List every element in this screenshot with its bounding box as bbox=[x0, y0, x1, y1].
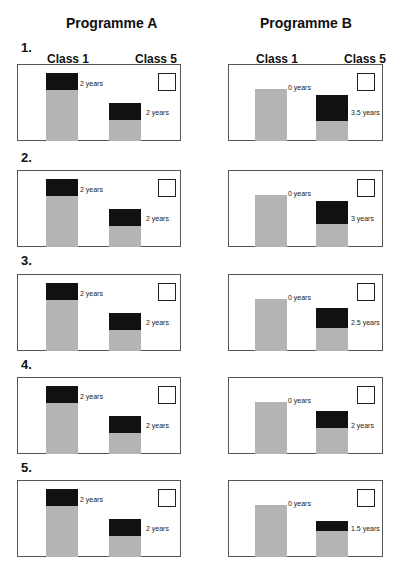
programme-a-panel: 2 years 2 years bbox=[17, 274, 181, 351]
class5-bar bbox=[316, 521, 348, 557]
class1-duration-label: 0 years bbox=[288, 84, 311, 91]
answer-checkbox[interactable] bbox=[158, 179, 176, 197]
answer-checkbox[interactable] bbox=[357, 386, 375, 404]
class5-duration-label: 3.5 years bbox=[351, 109, 380, 116]
class5-duration-label: 1.5 years bbox=[351, 525, 380, 532]
class5-duration-label: 2 years bbox=[146, 215, 169, 222]
class1-bar bbox=[255, 505, 287, 557]
programme-b-panel: 0 years 2.5 years bbox=[228, 274, 383, 351]
answer-checkbox[interactable] bbox=[357, 73, 375, 91]
class1-duration-label: 2 years bbox=[80, 186, 103, 193]
programme-b-panel: 0 years 3.5 years bbox=[228, 64, 383, 141]
class1-duration-label: 0 years bbox=[288, 500, 311, 507]
class5-duration-label: 2 years bbox=[146, 422, 169, 429]
programme-b-panel: 0 years 3 years bbox=[228, 170, 383, 247]
class5-bar bbox=[109, 416, 141, 454]
class5-duration-label: 2 years bbox=[146, 109, 169, 116]
programme-a-panel: 2 years 2 years bbox=[17, 64, 181, 141]
row-number: 2. bbox=[21, 150, 32, 165]
class5-duration-label: 2.5 years bbox=[351, 319, 380, 326]
class1-bar bbox=[255, 402, 287, 454]
programme-a-panel: 2 years 2 years bbox=[17, 480, 181, 557]
answer-checkbox[interactable] bbox=[357, 179, 375, 197]
class5-bar bbox=[109, 313, 141, 351]
programme-a-panel: 2 years 2 years bbox=[17, 170, 181, 247]
class1-bar bbox=[46, 386, 78, 454]
answer-checkbox[interactable] bbox=[158, 283, 176, 301]
class5-bar bbox=[109, 519, 141, 557]
class1-duration-label: 2 years bbox=[80, 393, 103, 400]
class5-duration-label: 2 years bbox=[351, 422, 374, 429]
class5-duration-label: 2 years bbox=[146, 525, 169, 532]
row-number: 4. bbox=[21, 357, 32, 372]
row-number: 3. bbox=[21, 253, 32, 268]
row-number: 5. bbox=[21, 460, 32, 475]
class1-bar bbox=[255, 89, 287, 141]
class5-bar bbox=[316, 411, 348, 454]
programme-b-panel: 0 years 1.5 years bbox=[228, 480, 383, 557]
answer-checkbox[interactable] bbox=[158, 489, 176, 507]
class5-bar bbox=[316, 201, 348, 247]
programme-a-panel: 2 years 2 years bbox=[17, 377, 181, 454]
class5-duration-label: 2 years bbox=[146, 319, 169, 326]
class1-bar bbox=[46, 73, 78, 141]
class1-bar bbox=[46, 489, 78, 557]
class1-duration-label: 0 years bbox=[288, 294, 311, 301]
answer-checkbox[interactable] bbox=[158, 73, 176, 91]
class1-bar bbox=[46, 179, 78, 247]
class5-bar bbox=[109, 103, 141, 141]
class1-duration-label: 0 years bbox=[288, 190, 311, 197]
programme-b-title: Programme B bbox=[260, 15, 352, 31]
answer-checkbox[interactable] bbox=[357, 283, 375, 301]
class5-bar bbox=[316, 308, 348, 351]
class5-bar bbox=[109, 209, 141, 247]
class1-duration-label: 0 years bbox=[288, 397, 311, 404]
class1-bar bbox=[255, 299, 287, 351]
class1-bar bbox=[46, 283, 78, 351]
class1-duration-label: 2 years bbox=[80, 496, 103, 503]
class5-duration-label: 3 years bbox=[351, 215, 374, 222]
programme-b-panel: 0 years 2 years bbox=[228, 377, 383, 454]
class5-bar bbox=[316, 95, 348, 141]
answer-checkbox[interactable] bbox=[357, 489, 375, 507]
row-number: 1. bbox=[21, 40, 32, 55]
class1-bar bbox=[255, 195, 287, 247]
answer-checkbox[interactable] bbox=[158, 386, 176, 404]
programme-a-title: Programme A bbox=[66, 15, 157, 31]
class1-duration-label: 2 years bbox=[80, 80, 103, 87]
class1-duration-label: 2 years bbox=[80, 290, 103, 297]
